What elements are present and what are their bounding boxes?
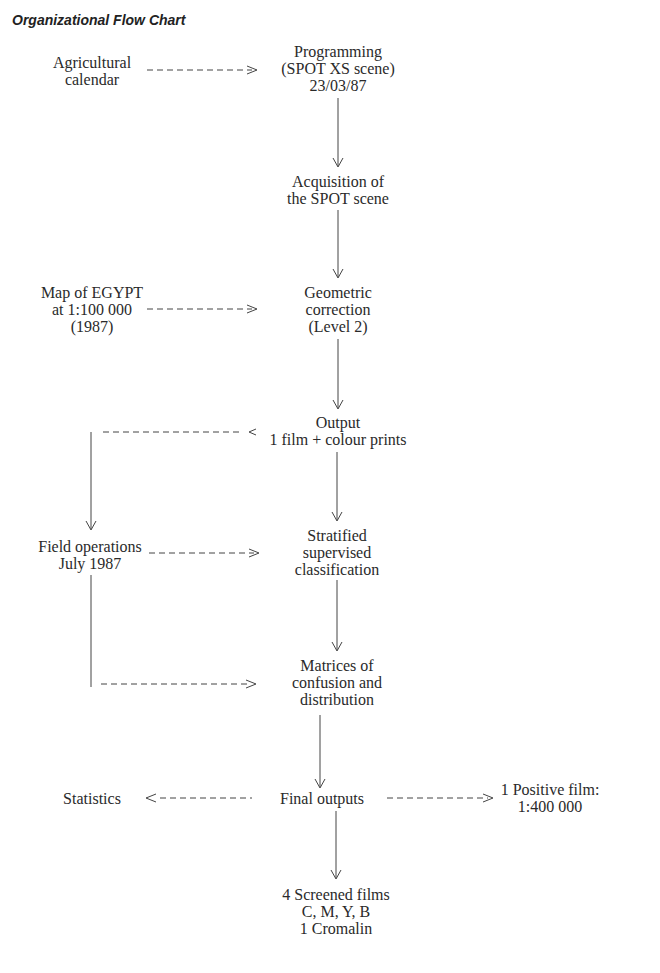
node-stratified-classification: Stratified supervised classification (295, 527, 379, 578)
node-map-egypt: Map of EGYPT at 1:100 000 (1987) (41, 284, 143, 335)
node-acquisition: Acquisition of the SPOT scene (287, 173, 389, 207)
node-positive-film: 1 Positive film: 1:400 000 (501, 781, 600, 815)
node-output: Output 1 film + colour prints (269, 414, 406, 448)
node-field-operations: Field operations July 1987 (38, 538, 142, 572)
node-agricultural-calendar: Agricultural calendar (53, 54, 131, 88)
node-geometric-correction: Geometric correction (Level 2) (304, 284, 372, 335)
node-statistics: Statistics (63, 790, 121, 807)
node-final-outputs: Final outputs (280, 790, 364, 807)
connector-lines (0, 0, 660, 973)
node-matrices: Matrices of confusion and distribution (292, 657, 382, 708)
node-screened-films: 4 Screened films C, M, Y, B 1 Cromalin (282, 886, 390, 937)
node-programming: Programming (SPOT XS scene) 23/03/87 (281, 43, 394, 94)
